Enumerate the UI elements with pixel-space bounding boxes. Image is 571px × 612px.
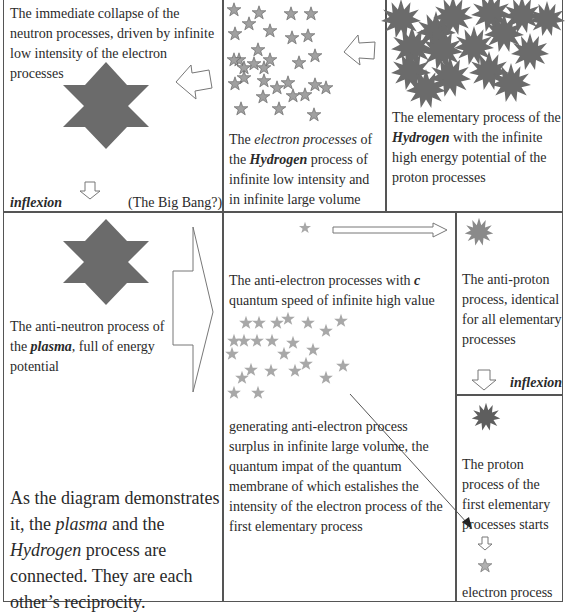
text-part: plasma [31,339,72,354]
arrow-right-long-icon [333,223,447,237]
electron-stars-cluster [227,3,333,121]
anti-electron-description: The anti-electron processes with c quant… [229,271,449,311]
right-inflexion-label: inflexion [510,373,562,393]
text-part: quantum speed of infinite high value [229,293,435,308]
anti-proton-description: The anti-proton process, identical for a… [462,270,562,350]
arrow-left-icon-2 [344,35,375,65]
electron-star-icon [478,559,492,572]
arrow-down-icon [80,182,100,199]
hexagram-anti-neutron-icon [63,219,149,305]
big-bang-label: (The Big Bang?) [128,193,222,213]
text-part: electron processes [254,132,357,147]
text-part: plasma [56,514,108,534]
top-middle-description: The electron processes of the Hydrogen p… [229,130,381,210]
proton-bursts-cluster [381,0,565,108]
text-part: c [414,273,420,288]
text-part: and the [108,514,165,534]
text-part: The anti-electron processes with [229,273,414,288]
summary-text: As the diagram demonstrates it, the plas… [10,485,220,612]
anti-proton-burst-icon [465,218,494,246]
anti-electron-star-icon [299,222,311,233]
arrow-right-large-icon [173,227,213,392]
proton-process-description: The proton process of the first elementa… [462,455,562,535]
arrow-down-icon-2 [472,370,496,390]
text-part: The [229,132,254,147]
text-part: Hydrogen [392,130,450,145]
anti-electron-stars-cluster [225,312,350,399]
top-left-inflexion-label: inflexion [10,193,62,213]
text-part: Hydrogen [250,152,308,167]
anti-neutron-caption: The anti-neutron process of the plasma, … [10,317,170,377]
top-left-description: The immediate collapse of the neutron pr… [10,4,215,84]
electron-process-label: electron process [462,583,553,603]
arrow-down-small-icon [478,537,492,550]
anti-electron-surplus-description: generating anti-electron process surplus… [229,417,451,537]
text-part: Hydrogen [10,540,81,560]
proton-burst-icon [472,403,501,431]
text-part: The elementary process of the [392,110,561,125]
top-right-description: The elementary process of the Hydrogen w… [392,108,562,188]
